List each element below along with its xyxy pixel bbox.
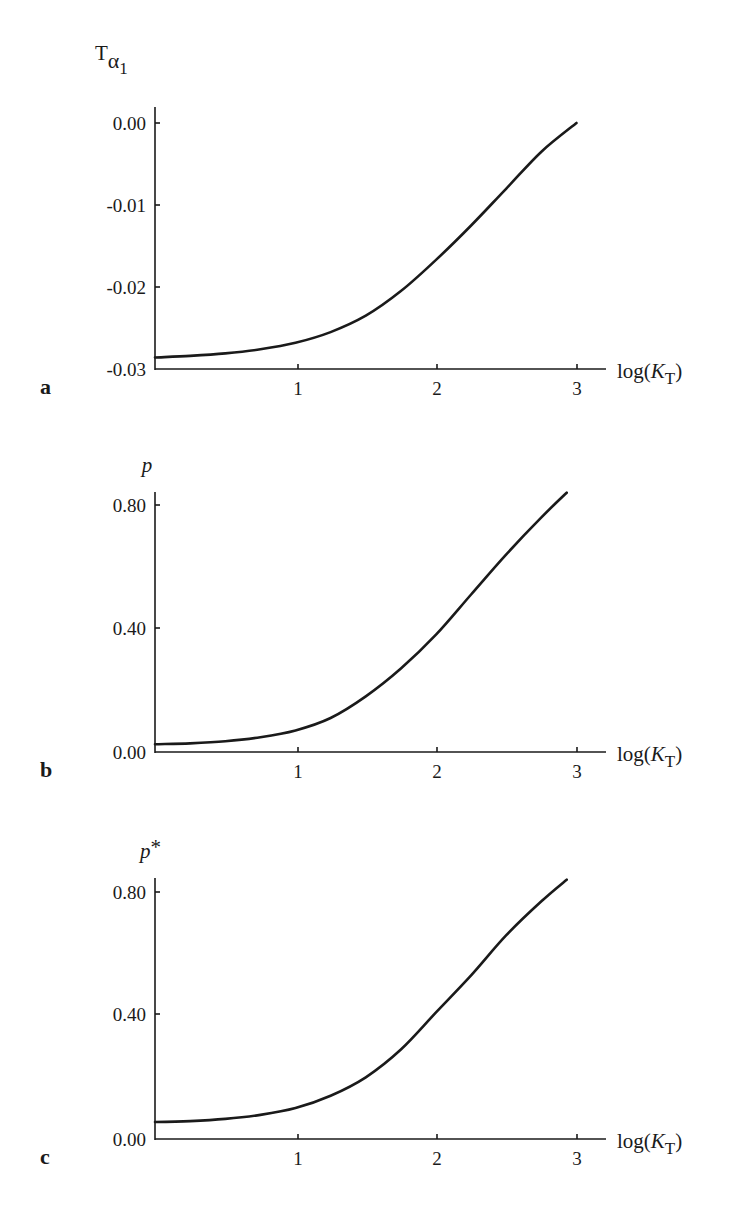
x-axis-title-k: K xyxy=(650,1129,666,1153)
panel-letter: c xyxy=(40,1144,50,1169)
y-axis-title-main: p xyxy=(138,839,151,863)
x-tick-label: 3 xyxy=(572,1148,582,1169)
x-tick-label: 1 xyxy=(293,1148,303,1169)
x-axis-title: log(KT) xyxy=(617,1129,682,1158)
x-axis-title-post: ) xyxy=(675,1129,682,1153)
data-curve xyxy=(155,880,567,1122)
x-tick-label: 2 xyxy=(432,1148,442,1169)
y-axis-title: p* xyxy=(138,835,161,863)
x-axis-title-pre: log( xyxy=(617,1129,651,1153)
y-tick-label: 0.40 xyxy=(113,1004,146,1025)
y-axis-title-star: * xyxy=(151,835,162,859)
y-tick-label: 0.80 xyxy=(113,882,146,903)
y-tick-label: 0.00 xyxy=(113,1129,146,1150)
chart-panel-c: p* 0.80 0.40 0.00 1 2 3 log(KT) c xyxy=(0,0,750,1210)
x-axis-title-sub: T xyxy=(665,1139,676,1158)
